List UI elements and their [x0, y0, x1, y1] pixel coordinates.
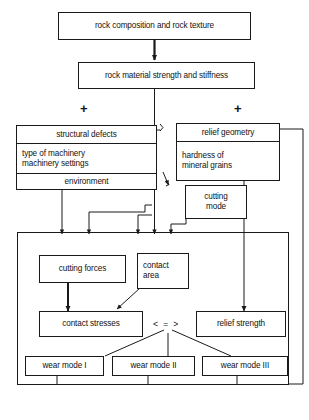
node-relief-group[interactable]: relief geometry hardness of mineral grai…	[176, 123, 280, 181]
segment-environment[interactable]: environment	[17, 173, 156, 189]
node-cutting-forces-label: cutting forces	[40, 264, 125, 274]
segment-machinery-line1: type of machinery	[17, 149, 156, 159]
plus-symbol-left: +	[80, 102, 88, 115]
node-relief-strength-label: relief strength	[197, 319, 285, 329]
node-wear-mode-1[interactable]: wear mode I	[25, 356, 104, 376]
node-wear-mode-3-label: wear mode III	[203, 361, 287, 371]
node-contact-stresses[interactable]: contact stresses	[39, 311, 143, 337]
node-wear-mode-3[interactable]: wear mode III	[202, 356, 288, 376]
segment-relief-geometry[interactable]: relief geometry	[177, 124, 279, 141]
node-rock-composition[interactable]: rock composition and rock texture	[58, 12, 251, 40]
plus-symbol-right: +	[234, 102, 242, 115]
node-wear-mode-2-label: wear mode II	[113, 361, 194, 371]
segment-hardness-mineral-grains[interactable]: hardness of mineral grains	[177, 141, 279, 180]
node-cutting-mode-line1: cutting	[186, 192, 246, 202]
segment-structural-defects-label: structural defects	[17, 130, 156, 140]
segment-environment-label: environment	[17, 177, 156, 187]
segment-machinery[interactable]: type of machinery machinery settings	[17, 143, 156, 173]
node-machinery-group[interactable]: structural defects type of machinery mac…	[16, 125, 157, 190]
segment-hardness-line1: hardness of	[177, 151, 279, 161]
segment-hardness-line2: mineral grains	[177, 161, 279, 171]
node-wear-mode-2[interactable]: wear mode II	[112, 356, 195, 376]
comparator-symbol: < = >	[153, 320, 180, 329]
node-rock-material-strength[interactable]: rock material strength and stiffness	[78, 62, 255, 89]
node-contact-area-line2: area	[138, 271, 188, 281]
node-contact-area-line1: contact	[138, 261, 188, 271]
segment-structural-defects[interactable]: structural defects	[17, 126, 156, 143]
node-contact-area[interactable]: contact area	[137, 253, 189, 289]
flowchart-diagram: rock composition and rock texture rock m…	[0, 0, 309, 420]
node-rock-material-strength-label: rock material strength and stiffness	[79, 71, 254, 81]
node-contact-stresses-label: contact stresses	[40, 319, 142, 329]
node-cutting-mode-line2: mode	[186, 202, 246, 212]
segment-machinery-line2: machinery settings	[17, 159, 156, 169]
node-rock-composition-label: rock composition and rock texture	[59, 21, 250, 31]
node-relief-strength[interactable]: relief strength	[196, 311, 286, 337]
node-cutting-mode[interactable]: cutting mode	[185, 185, 247, 219]
node-cutting-forces[interactable]: cutting forces	[39, 255, 126, 283]
segment-relief-geometry-label: relief geometry	[177, 128, 279, 138]
node-wear-mode-1-label: wear mode I	[26, 361, 103, 371]
